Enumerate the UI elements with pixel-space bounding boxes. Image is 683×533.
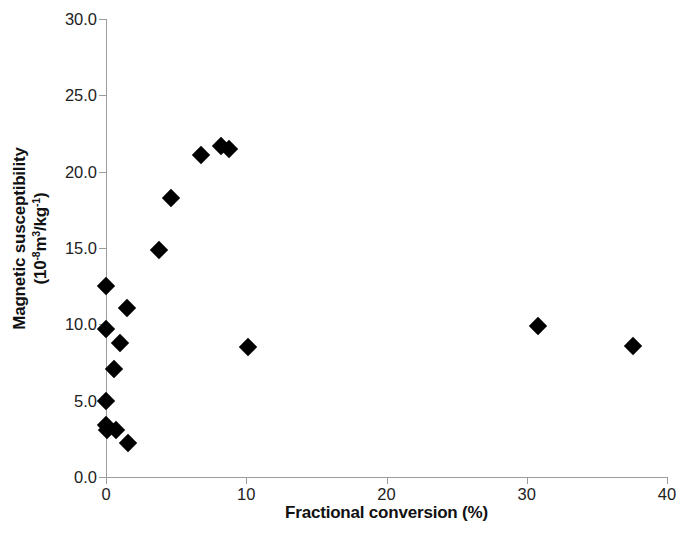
data-point-marker [624, 337, 642, 355]
x-axis-tick-label: 40 [658, 485, 676, 504]
data-point-marker [150, 240, 168, 258]
data-point-marker [97, 277, 115, 295]
x-axis-tick-label: 0 [101, 485, 110, 504]
x-axis-tick [527, 477, 528, 484]
y-axis-title-text: Magnetic susceptibility (10-8m3/kg-1) [8, 147, 51, 329]
y-axis-tick-label: 20.0 [65, 162, 97, 181]
data-point-marker [97, 320, 115, 338]
x-axis-tick-label: 10 [237, 485, 255, 504]
y-axis-tick-label: 10.0 [65, 315, 97, 334]
y-axis-tick-label: 25.0 [65, 86, 97, 105]
data-point-marker [111, 333, 129, 351]
x-axis-tick [667, 477, 668, 484]
scatter-chart-figure: Magnetic susceptibility (10-8m3/kg-1) 0.… [0, 0, 683, 533]
y-axis-tick-label: 15.0 [65, 239, 97, 258]
data-point-marker [529, 317, 547, 335]
y-axis-tick [99, 172, 106, 173]
x-axis-tick [106, 477, 107, 484]
y-axis-title-line2: (10-8m3/kg-1) [30, 147, 52, 329]
y-axis-tick-label: 0.0 [74, 468, 97, 487]
x-axis-tick [387, 477, 388, 484]
x-axis-tick-label: 30 [518, 485, 536, 504]
y-axis-tick [99, 477, 106, 478]
plot-area: 0.05.010.015.020.025.030.0010203040 [106, 19, 667, 477]
y-axis-tick-label: 5.0 [74, 391, 97, 410]
y-axis-title: Magnetic susceptibility (10-8m3/kg-1) [0, 0, 60, 477]
y-axis-tick [99, 248, 106, 249]
y-axis-tick [99, 95, 106, 96]
data-point-marker [161, 188, 179, 206]
y-axis-title-line1: Magnetic susceptibility [9, 147, 28, 329]
data-point-marker [97, 391, 115, 409]
data-point-marker [105, 359, 123, 377]
y-axis-tick-label: 30.0 [65, 10, 97, 29]
data-point-marker [118, 298, 136, 316]
data-point-marker [192, 146, 210, 164]
data-point-marker [238, 338, 256, 356]
x-axis-tick-label: 20 [377, 485, 395, 504]
data-point-marker [119, 434, 137, 452]
y-axis-tick [99, 19, 106, 20]
x-axis-title: Fractional conversion (%) [106, 503, 667, 523]
x-axis-tick [246, 477, 247, 484]
